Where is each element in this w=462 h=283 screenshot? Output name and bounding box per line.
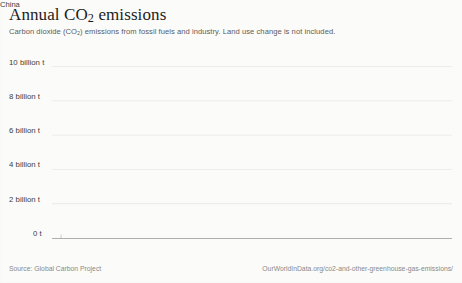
y-axis-tick-label: 2 billion t: [9, 195, 40, 204]
chart-plot-area: [0, 0, 462, 283]
gridlines: [52, 67, 452, 204]
series-label-china: China: [0, 0, 20, 9]
y-axis-tick-label: 10 billion t: [9, 58, 44, 67]
y-axis-tick-label: 0 t: [33, 229, 42, 238]
y-axis-tick-label: 8 billion t: [9, 92, 40, 101]
footer-source-text: Source: Global Carbon Project: [9, 265, 101, 272]
y-axis-tick-label: 6 billion t: [9, 126, 40, 135]
chart-screenshot: Annual CO2 emissions Carbon dioxide (CO2…: [0, 0, 462, 283]
footer-url-text[interactable]: OurWorldInData.org/co2-and-other-greenho…: [262, 265, 453, 272]
y-axis-tick-label: 4 billion t: [9, 160, 40, 169]
